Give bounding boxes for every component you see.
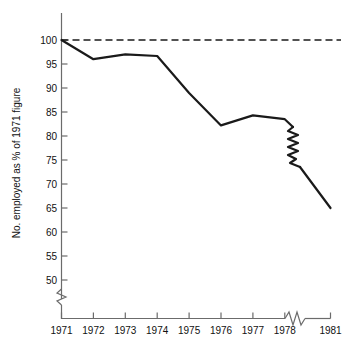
x-tick-label-1976: 1976 bbox=[210, 325, 233, 336]
y-tick-label-70: 70 bbox=[46, 179, 58, 190]
x-tick-label-1972: 1972 bbox=[82, 325, 105, 336]
x-tick-label-1973: 1973 bbox=[114, 325, 137, 336]
x-tick-label-1974: 1974 bbox=[146, 325, 169, 336]
x-tick-label-1975: 1975 bbox=[178, 325, 201, 336]
y-tick-label-75: 75 bbox=[46, 155, 58, 166]
x-tick-label-1971: 1971 bbox=[50, 325, 73, 336]
x-tick-label-1977: 1977 bbox=[242, 325, 265, 336]
y-tick-label-50: 50 bbox=[46, 275, 58, 286]
y-axis-title: No. employed as % of 1971 figure bbox=[11, 87, 22, 238]
y-tick-label-85: 85 bbox=[46, 107, 58, 118]
employment-line-chart: 100 95 90 85 80 75 70 65 60 55 50 1971 1… bbox=[0, 0, 348, 344]
y-tick-label-100: 100 bbox=[40, 35, 57, 46]
y-tick-label-90: 90 bbox=[46, 83, 58, 94]
y-tick-label-95: 95 bbox=[46, 59, 58, 70]
y-tick-label-55: 55 bbox=[46, 251, 58, 262]
chart-background bbox=[0, 0, 348, 344]
y-tick-label-60: 60 bbox=[46, 227, 58, 238]
x-tick-label-1981: 1981 bbox=[319, 325, 342, 336]
x-tick-label-1978: 1978 bbox=[274, 325, 297, 336]
y-tick-label-65: 65 bbox=[46, 203, 58, 214]
chart-container: 100 95 90 85 80 75 70 65 60 55 50 1971 1… bbox=[0, 0, 348, 344]
y-tick-label-80: 80 bbox=[46, 131, 58, 142]
